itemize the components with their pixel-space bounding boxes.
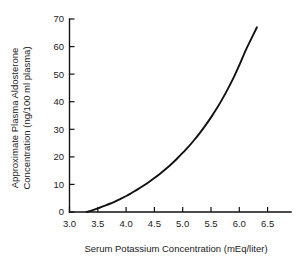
aldosterone-potassium-line-chart: Approximate Plasma Aldosterone Concentra… [0,0,303,264]
y-axis-title: Approximate Plasma Aldosterone Concentra… [9,46,32,189]
x-tick-label-4-0: 4.0 [119,218,132,229]
y-tick-label-40: 40 [53,96,64,107]
x-axis-title: Serum Potassium Concentration (mEq/liter… [84,243,267,254]
x-tick-label-6-0: 6.0 [233,218,246,229]
y-tick-label-70: 70 [53,13,64,24]
y-tick-label-50: 50 [53,69,64,80]
x-tick-label-6-5: 6.5 [261,218,274,229]
y-tick-label-60: 60 [53,41,64,52]
y-tick-label-0: 0 [59,206,64,217]
x-tick-label-5-5: 5.5 [204,218,217,229]
y-tick-label-20: 20 [53,151,64,162]
x-tick-label-5-0: 5.0 [176,218,189,229]
y-tick-label-30: 30 [53,124,64,135]
y-tick-label-10: 10 [53,179,64,190]
chart-figure: Approximate Plasma Aldosterone Concentra… [0,0,303,264]
x-tick-label-4-5: 4.5 [148,218,161,229]
y-axis-title-line1: Approximate Plasma Aldosterone [9,48,20,188]
x-tick-label-3-5: 3.5 [91,218,104,229]
y-axis-title-line2: Concentration (ng/100 ml plasma) [21,46,32,189]
x-tick-label-3-0: 3.0 [63,218,76,229]
